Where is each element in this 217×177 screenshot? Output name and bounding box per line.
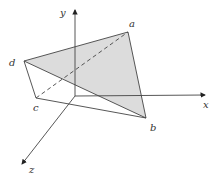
x-axis	[75, 95, 205, 96]
x-axis-label: x	[203, 99, 209, 110]
y-axis-label: y	[59, 7, 66, 18]
vertex-b-label: b	[150, 122, 156, 133]
vertex-c-label: c	[33, 102, 39, 113]
z-axis	[22, 96, 75, 164]
shaded-face-dab	[24, 32, 146, 118]
vertex-a-label: a	[129, 18, 135, 29]
edge-dc	[24, 61, 36, 98]
vertex-d-label: d	[9, 57, 15, 68]
z-axis-label: z	[28, 164, 35, 175]
tetrahedron-diagram: y x z a b c d	[0, 0, 217, 177]
